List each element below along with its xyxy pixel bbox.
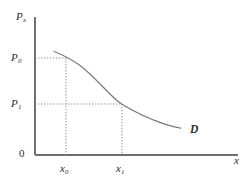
y-axis-title-base: P (16, 10, 23, 22)
p1-subscript: 1 (18, 103, 21, 110)
x-tick-label-x0: x0 (60, 163, 68, 174)
demand-curve-plot (0, 0, 251, 186)
y-tick-label-p1: P1 (11, 98, 21, 109)
p0-subscript: 0 (18, 57, 21, 64)
x0-subscript: 0 (65, 168, 68, 175)
y-axis-title-subscript: x (23, 16, 26, 23)
x-tick-label-x1: x1 (116, 163, 124, 174)
y-tick-label-p0: P0 (11, 52, 21, 63)
demand-curve (54, 52, 181, 129)
x1-subscript: 1 (121, 168, 124, 175)
demand-curve-figure: Px P0 P1 0 x0 x1 x D (0, 0, 251, 186)
p1-base: P (11, 97, 18, 109)
y-axis-title: Px (16, 11, 26, 22)
p0-base: P (11, 51, 18, 63)
origin-label: 0 (19, 148, 25, 159)
demand-curve-label: D (190, 124, 198, 136)
x-axis-title: x (234, 155, 239, 166)
